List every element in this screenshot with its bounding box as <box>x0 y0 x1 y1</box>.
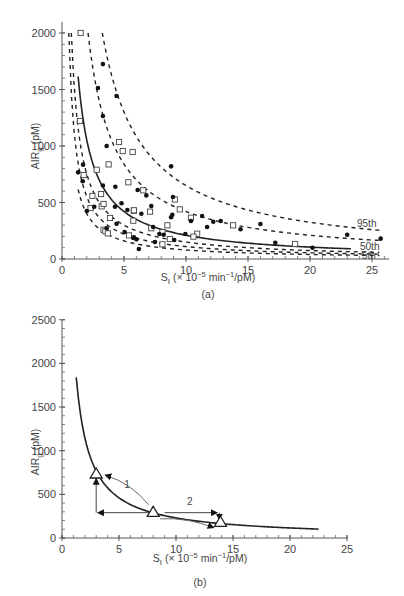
open-square-marker <box>165 223 170 228</box>
solid-dot-marker <box>101 183 106 188</box>
x-tick-label: 25 <box>341 543 353 555</box>
arc-arrow-2 <box>160 519 214 528</box>
solid-dot-marker <box>171 195 176 200</box>
solid-dot-marker <box>134 237 139 242</box>
solid-dot-marker <box>183 232 188 237</box>
y-tick-label: 2000 <box>32 27 56 39</box>
solid-dot-marker <box>76 170 81 175</box>
solid-dot-marker <box>101 114 106 119</box>
open-square-marker <box>141 188 146 193</box>
open-square-marker <box>81 172 86 177</box>
annotation-label: 2 <box>187 496 193 507</box>
chart-b: 05001000150020002500051015202512AIRg (pM… <box>0 300 404 596</box>
solid-dot-marker <box>80 179 85 184</box>
open-square-marker <box>106 162 111 167</box>
y-tick-label: 0 <box>50 532 56 544</box>
figure: 0500100015002000051015202595th50th5thAIR… <box>0 0 404 596</box>
open-square-marker <box>116 139 121 144</box>
curve-5th <box>78 189 379 255</box>
solid-dot-marker <box>139 211 144 216</box>
y-tick-label: 1500 <box>32 401 56 413</box>
solid-dot-marker <box>85 209 90 214</box>
solid-dot-marker <box>273 240 278 245</box>
open-square-marker <box>167 236 172 241</box>
curve-95th <box>102 33 379 230</box>
solid-dot-marker <box>189 219 194 224</box>
open-square-marker <box>126 180 131 185</box>
curve-label-95th: 95th <box>357 218 376 229</box>
open-square-marker <box>98 191 103 196</box>
solid-dot-marker <box>114 94 119 99</box>
triangle-marker <box>90 468 102 478</box>
open-square-marker <box>94 167 99 172</box>
solid-dot-marker <box>161 232 166 237</box>
solid-dot-marker <box>218 219 223 224</box>
curve-label-5th: 5th <box>362 250 376 261</box>
open-square-marker <box>107 215 112 220</box>
x-tick-label: 25 <box>366 264 378 276</box>
solid-dot-marker <box>119 201 124 206</box>
solid-dot-marker <box>169 164 174 169</box>
solid-dot-marker <box>114 221 119 226</box>
solid-dot-marker <box>104 226 109 231</box>
solid-dot-marker <box>96 86 101 91</box>
open-square-marker <box>131 208 136 213</box>
solid-dot-marker <box>157 232 162 237</box>
x-tick-label: 5 <box>121 264 127 276</box>
solid-dot-marker <box>81 162 86 167</box>
y-tick-label: 2000 <box>32 357 56 369</box>
triangle-marker <box>214 516 226 526</box>
solid-dot-marker <box>211 219 216 224</box>
open-square-marker <box>147 209 152 214</box>
y-tick-label: 500 <box>38 488 56 500</box>
x-tick-label: 20 <box>304 264 316 276</box>
open-square-marker <box>90 193 95 198</box>
x-tick-label: 5 <box>116 543 122 555</box>
curve-15th <box>69 33 380 254</box>
open-square-marker <box>231 223 236 228</box>
main-curve <box>76 377 318 529</box>
solid-dot-marker <box>122 230 127 235</box>
open-square-marker <box>177 207 182 212</box>
solid-dot-marker <box>258 222 263 227</box>
solid-dot-marker <box>310 245 315 250</box>
y-tick-label: 500 <box>38 197 56 209</box>
solid-dot-marker <box>149 204 154 209</box>
panel-label: (b) <box>194 576 207 588</box>
panel-label: (a) <box>202 288 215 300</box>
solid-dot-marker <box>92 204 97 209</box>
chart-a: 0500100015002000051015202595th50th5thAIR… <box>0 0 404 300</box>
open-square-marker <box>77 118 82 123</box>
x-axis-label: SI (× 10−5 min−1/pM) <box>161 270 255 286</box>
open-square-marker <box>120 148 125 153</box>
solid-dot-marker <box>113 184 118 189</box>
solid-dot-marker <box>205 225 210 230</box>
y-tick-label: 1500 <box>32 84 56 96</box>
open-square-marker <box>78 30 83 35</box>
open-square-marker <box>131 218 136 223</box>
solid-dot-marker <box>169 215 174 220</box>
solid-dot-marker <box>113 204 118 209</box>
solid-dot-marker <box>153 240 158 245</box>
solid-dot-marker <box>200 214 205 219</box>
open-square-marker <box>293 241 298 246</box>
solid-dot-marker <box>345 232 350 237</box>
x-tick-label: 20 <box>284 543 296 555</box>
solid-dot-marker <box>101 62 106 67</box>
solid-dot-marker <box>137 247 142 252</box>
solid-dot-marker <box>135 188 140 193</box>
y-tick-label: 0 <box>50 253 56 265</box>
open-square-marker <box>105 231 110 236</box>
solid-dot-marker <box>172 238 177 243</box>
open-square-marker <box>126 233 131 238</box>
open-square-marker <box>160 242 165 247</box>
x-axis-label: SI (× 10−5 min−1/pM) <box>153 551 247 567</box>
solid-dot-marker <box>378 236 383 241</box>
solid-dot-marker <box>104 144 109 149</box>
open-square-marker <box>101 201 106 206</box>
x-tick-label: 0 <box>59 543 65 555</box>
y-tick-label: 2500 <box>32 314 56 326</box>
solid-dot-marker <box>144 193 149 198</box>
solid-dot-marker <box>125 208 130 213</box>
solid-dot-marker <box>151 225 156 230</box>
